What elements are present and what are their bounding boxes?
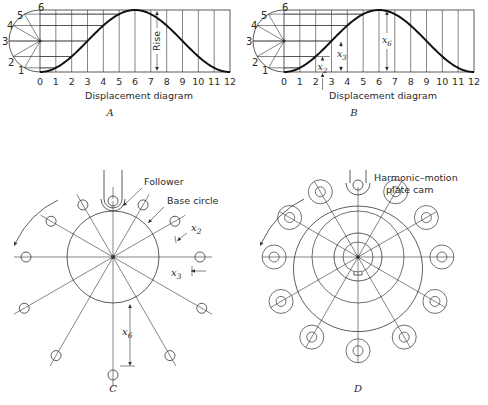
panel-caption: C — [109, 383, 117, 394]
semicircle-radial — [269, 14, 285, 41]
base-circle-leader — [149, 207, 164, 222]
rotation-arrow — [16, 200, 58, 242]
circle-division-label: 1 — [18, 65, 24, 76]
semicircle-radial — [13, 41, 40, 57]
x-tick-label: 8 — [408, 76, 414, 87]
x-tick-label: 5 — [116, 76, 122, 87]
x-axis-label: Displacement diagram — [329, 90, 437, 101]
x2-label: x2 — [191, 222, 202, 236]
rise-arrow-up — [155, 11, 159, 15]
radial-line — [77, 195, 113, 257]
semicircle-radial — [257, 41, 284, 57]
x2-tick — [175, 236, 176, 243]
panel-C-cam-layout: FollowerBase circlex2x3x6C — [14, 170, 219, 394]
x-tick-label: 6 — [132, 76, 138, 87]
x-tick-label: 12 — [224, 76, 236, 87]
x-tick-label: 9 — [179, 76, 185, 87]
x-tick-label: 10 — [436, 76, 448, 87]
x-tick-label: 10 — [192, 76, 204, 87]
x-tick-label: 5 — [360, 76, 366, 87]
follower-label: Follower — [144, 176, 184, 187]
panel-A-displacement-diagram: 1234560123456789101112Displacement diagr… — [2, 2, 236, 118]
circle-division-label: 2 — [8, 57, 14, 68]
radial-line — [113, 257, 176, 366]
x-tick-label: 4 — [344, 76, 350, 87]
radial-line — [113, 195, 149, 257]
x3-arrow-down — [339, 67, 343, 71]
circle-division-label: 4 — [251, 20, 257, 31]
circle-division-label: 1 — [262, 65, 268, 76]
rise-label: Rise — [151, 31, 162, 51]
semicircle-center — [39, 40, 42, 43]
semicircle-radial — [25, 14, 41, 41]
panel-caption: D — [353, 383, 362, 394]
x-tick-label: 2 — [313, 76, 319, 87]
panel-D-cam-profile: Harmonic–motionplate camD — [260, 170, 458, 394]
x-tick-label: 6 — [376, 76, 382, 87]
x-tick-label: 8 — [164, 76, 170, 87]
x-axis-label: Displacement diagram — [85, 90, 193, 101]
x3-label: x3 — [171, 267, 182, 281]
x6-label: x6 — [382, 34, 392, 48]
x2-label: x2 — [318, 61, 328, 75]
rotation-arrow — [262, 199, 304, 242]
panel-caption: B — [349, 107, 357, 118]
x-tick-label: 7 — [392, 76, 398, 87]
rise-arrow-down — [155, 67, 159, 71]
x-tick-label: 9 — [423, 76, 429, 87]
x-tick-label: 12 — [468, 76, 480, 87]
x-tick-label: 1 — [297, 76, 303, 87]
x3-arrow — [191, 269, 195, 273]
base-circle-label: Base circle — [167, 195, 219, 206]
follower-leader — [124, 188, 142, 205]
semicircle-center — [283, 40, 286, 43]
x-tick-label: 4 — [100, 76, 106, 87]
panel-B-displacement-diagram: 1234560123456789101112Displacement diagr… — [246, 2, 480, 118]
circle-division-label: 6 — [38, 2, 44, 13]
radial-line — [279, 212, 358, 257]
circle-division-label: 3 — [246, 36, 252, 47]
x3-arrow-up — [339, 42, 343, 46]
circle-division-label: 6 — [282, 2, 288, 13]
x-tick-label: 11 — [452, 76, 464, 87]
x-tick-label: 11 — [208, 76, 220, 87]
title-line-2: plate cam — [386, 184, 433, 195]
x6-arrow-down — [385, 67, 389, 71]
x-tick-label: 0 — [281, 76, 287, 87]
circle-division-label: 5 — [261, 10, 267, 21]
x-tick-label: 2 — [69, 76, 75, 87]
semicircle-radial — [269, 41, 285, 68]
radial-line — [358, 212, 437, 257]
x-tick-label: 7 — [148, 76, 154, 87]
cam-design-figure: 1234560123456789101112Displacement diagr… — [0, 0, 488, 405]
radial-line — [41, 215, 113, 257]
semicircle-radial — [25, 41, 41, 68]
rotation-arrowhead — [14, 242, 17, 246]
x-tick-label: 0 — [37, 76, 43, 87]
x-tick-label: 3 — [84, 76, 90, 87]
x3-label: x3 — [337, 48, 347, 62]
circle-division-label: 5 — [17, 10, 23, 21]
panel-caption: A — [105, 107, 113, 118]
rotation-arrowhead — [260, 242, 263, 246]
x6-arrow-down — [128, 362, 132, 366]
circle-division-label: 4 — [7, 20, 13, 31]
x6-label: x6 — [122, 326, 133, 340]
title-line-1: Harmonic–motion — [374, 172, 458, 183]
semicircle-radial — [257, 26, 284, 42]
circle-division-label: 2 — [252, 57, 258, 68]
semicircle-radial — [13, 26, 40, 42]
circle-division-label: 3 — [2, 36, 8, 47]
radial-line — [50, 257, 113, 366]
x-tick-label: 1 — [53, 76, 59, 87]
x6-arrow-up — [128, 304, 132, 308]
x-tick-label: 3 — [328, 76, 334, 87]
